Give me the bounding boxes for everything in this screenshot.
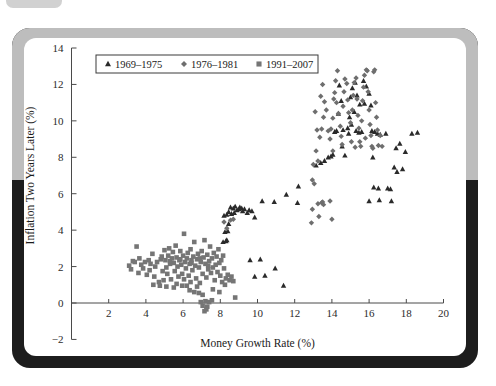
data-point-square (165, 272, 170, 277)
data-point-diamond (357, 139, 362, 144)
data-point-square (221, 253, 226, 258)
data-point-square (216, 247, 221, 252)
data-point-triangle (409, 131, 414, 136)
data-point-diamond (329, 217, 334, 222)
data-point-square (200, 293, 205, 298)
data-point-diamond (359, 118, 364, 123)
figure-page: 246810121416182014121086420−2Money Growt… (0, 0, 496, 386)
data-point-triangle (272, 266, 277, 271)
chart-canvas: 246810121416182014121086420−2Money Growt… (0, 0, 496, 386)
data-point-triangle (346, 131, 351, 136)
data-point-square (192, 240, 197, 245)
series-2 (221, 67, 385, 231)
data-point-diamond (333, 78, 338, 83)
data-point-square (173, 243, 178, 248)
data-point-square (217, 290, 222, 295)
data-point-square (197, 265, 202, 270)
y-tick-label: 2 (58, 261, 64, 273)
data-point-square (210, 298, 215, 303)
data-point-square (208, 244, 213, 249)
data-point-square (204, 275, 209, 280)
data-point-square (205, 252, 210, 257)
data-point-square (233, 295, 238, 300)
data-point-diamond (362, 73, 367, 78)
data-point-square (163, 258, 168, 263)
data-point-square (187, 288, 192, 293)
data-point-square (132, 260, 137, 265)
data-point-square (206, 263, 211, 268)
data-point-square (137, 256, 142, 261)
data-point-diamond (363, 135, 368, 140)
data-point-diamond (322, 99, 327, 104)
data-point-square (192, 290, 197, 295)
data-point-square (148, 262, 153, 267)
data-point-triangle (368, 103, 373, 108)
data-point-triangle (392, 164, 397, 169)
data-point-triangle (262, 273, 267, 278)
data-point-diamond (332, 90, 337, 95)
data-point-square (214, 254, 219, 259)
data-point-square (209, 271, 214, 276)
data-point-square (222, 266, 227, 271)
legend-label: 1976–1981 (191, 59, 238, 70)
data-point-diamond (315, 201, 320, 206)
data-point-square (210, 256, 215, 261)
data-point-square (219, 258, 224, 263)
data-point-triangle (224, 237, 229, 242)
data-point-square (202, 238, 207, 243)
x-tick-label: 16 (364, 307, 376, 319)
data-point-diamond (316, 214, 321, 219)
data-point-square (147, 268, 152, 273)
legend-label: 1969–1975 (115, 59, 162, 70)
data-point-square (178, 257, 183, 262)
data-point-diamond (376, 143, 381, 148)
data-point-square (164, 284, 169, 289)
data-point-triangle (389, 198, 394, 203)
data-point-diamond (367, 122, 372, 127)
data-point-diamond (349, 139, 354, 144)
data-point-square (184, 266, 189, 271)
data-point-triangle (376, 185, 381, 190)
y-tick-label: 12 (53, 78, 64, 90)
data-point-diamond (321, 115, 326, 120)
y-tick-label: 8 (58, 151, 64, 163)
y-axis-title: Inflation Two Years Later (%) (24, 106, 37, 244)
data-point-square (161, 278, 166, 283)
y-tick-label: 0 (58, 297, 64, 309)
data-point-square (182, 277, 187, 282)
data-point-triangle (383, 131, 388, 136)
data-point-triangle (226, 209, 231, 214)
data-point-triangle (252, 274, 257, 279)
data-point-triangle (295, 200, 300, 205)
data-point-triangle (258, 256, 263, 261)
data-point-diamond (330, 115, 335, 120)
data-point-square (229, 274, 234, 279)
data-point-diamond (330, 148, 335, 153)
data-point-triangle (370, 154, 375, 159)
data-point-square (136, 271, 141, 276)
data-point-triangle (397, 141, 402, 146)
data-point-diamond (339, 134, 344, 139)
series-1 (220, 78, 420, 288)
data-point-square (199, 249, 204, 254)
x-tick-label: 12 (289, 307, 300, 319)
data-point-diamond (341, 89, 346, 94)
x-tick-label: 4 (143, 307, 149, 319)
y-tick-label: 10 (53, 115, 65, 127)
data-point-triangle (350, 85, 355, 90)
data-point-diamond (314, 127, 319, 132)
data-point-triangle (284, 192, 289, 197)
scatter-chart: 246810121416182014121086420−2Money Growt… (0, 0, 496, 386)
data-point-diamond (327, 198, 332, 203)
data-point-square (171, 250, 176, 255)
data-point-triangle (415, 130, 420, 135)
data-point-square (194, 276, 199, 281)
data-point-square (152, 274, 157, 279)
data-point-diamond (358, 144, 363, 149)
y-tick-label: −2 (52, 333, 64, 345)
data-point-diamond (309, 220, 314, 225)
data-point-triangle (371, 185, 376, 190)
data-point-triangle (259, 198, 264, 203)
data-point-square (129, 267, 134, 272)
data-point-triangle (403, 149, 408, 154)
